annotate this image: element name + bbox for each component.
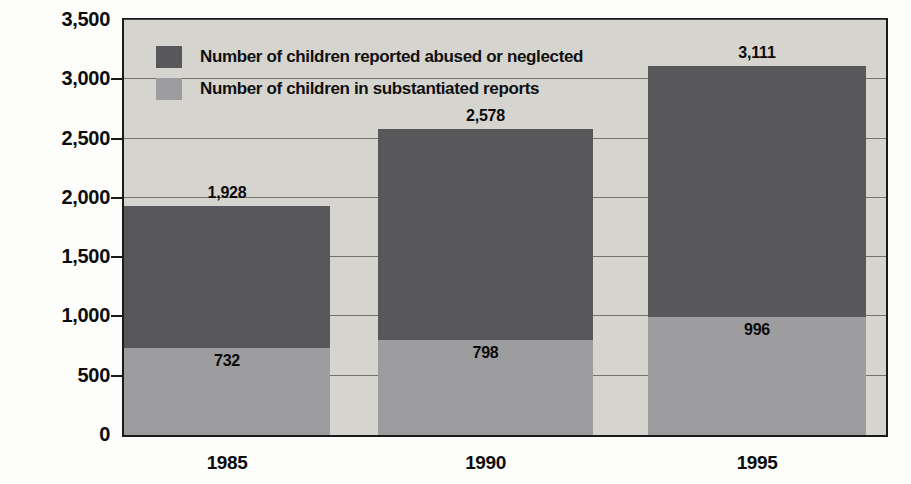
legend-label-substantiated: Number of children in substantiated repo… xyxy=(200,79,539,99)
bar-value-total-1985: 1,928 xyxy=(124,185,330,201)
y-axis-tick-2000 xyxy=(111,197,122,199)
bar-segment-reported-1985[interactable] xyxy=(124,206,330,348)
y-axis-label-2000: 2,000 xyxy=(2,187,110,207)
y-axis-label-1000: 1,000 xyxy=(2,305,110,325)
x-axis-label-1990: 1990 xyxy=(378,453,593,472)
y-axis-label-3500: 3,500 xyxy=(2,9,110,29)
plot-inner: 1,928 732 2,578 798 3,111 996 xyxy=(124,20,886,435)
x-axis-label-1995: 1995 xyxy=(648,453,866,472)
bar-value-substantiated-1985: 732 xyxy=(124,353,330,369)
bar-group-1995[interactable]: 3,111 996 xyxy=(648,20,866,435)
y-axis-label-2500: 2,500 xyxy=(2,128,110,148)
legend-item-substantiated[interactable]: Number of children in substantiated repo… xyxy=(156,74,583,104)
legend-swatch-substantiated-icon xyxy=(156,78,182,100)
bar-segment-reported-1990[interactable] xyxy=(378,129,593,340)
y-axis-label-500: 500 xyxy=(2,365,110,385)
plot-area: 1,928 732 2,578 798 3,111 996 xyxy=(122,18,888,437)
bar-segment-reported-1995[interactable] xyxy=(648,66,866,317)
bar-value-total-1990: 2,578 xyxy=(378,108,593,124)
legend-item-reported[interactable]: Number of children reported abused or ne… xyxy=(156,42,583,72)
y-axis-label-3000: 3,000 xyxy=(2,68,110,88)
stacked-bar-chart: 1,928 732 2,578 798 3,111 996 xyxy=(0,0,911,484)
legend-label-reported: Number of children reported abused or ne… xyxy=(200,47,583,67)
y-axis-label-0: 0 xyxy=(2,424,110,444)
chart-legend: Number of children reported abused or ne… xyxy=(156,42,583,106)
bar-value-total-1995: 3,111 xyxy=(648,45,866,61)
bar-value-substantiated-1995: 996 xyxy=(648,322,866,338)
y-axis-tick-1500 xyxy=(111,256,122,258)
y-axis-tick-2500 xyxy=(111,138,122,140)
x-axis-label-1985: 1985 xyxy=(124,453,330,472)
legend-swatch-reported-icon xyxy=(156,46,182,68)
y-axis-tick-1000 xyxy=(111,315,122,317)
y-axis-label-1500: 1,500 xyxy=(2,246,110,266)
bar-value-substantiated-1990: 798 xyxy=(378,345,593,361)
y-axis-tick-500 xyxy=(111,375,122,377)
y-axis-tick-3000 xyxy=(111,78,122,80)
